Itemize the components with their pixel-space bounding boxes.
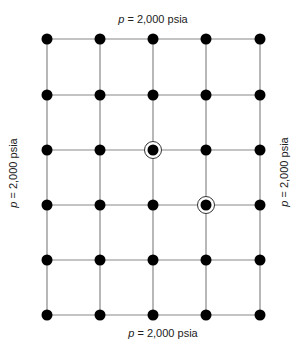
grid-node [42,200,53,211]
grid-node [95,255,106,266]
grid-lines [47,39,260,315]
grid-node [42,34,53,45]
grid-node [42,310,53,321]
pressure-value: = 2,000 psia [278,137,290,200]
grid-node [201,255,212,266]
grid-node [201,310,212,321]
pressure-value: = 2,000 psia [124,13,187,25]
grid-node [201,34,212,45]
pressure-variable: p [7,202,19,208]
grid-node [255,310,266,321]
grid-diagram [0,0,298,348]
grid-node [95,200,106,211]
grid-node [95,34,106,45]
grid-node [255,90,266,101]
grid-node [255,200,266,211]
grid-node [95,90,106,101]
grid-node [201,90,212,101]
grid-node [42,255,53,266]
grid-node [42,90,53,101]
grid-node [148,310,159,321]
grid-node [255,145,266,156]
right-boundary-label: p = 2,000 psia [278,137,290,206]
bottom-boundary-label: p = 2,000 psia [128,327,197,339]
pressure-value: = 2,000 psia [7,138,19,201]
grid-node [148,90,159,101]
grid-node [255,255,266,266]
grid-node [148,200,159,211]
grid-node [201,145,212,156]
grid-node [95,310,106,321]
pressure-variable: p [278,201,290,207]
grid-node [148,255,159,266]
grid-node [148,145,159,156]
grid-node [255,34,266,45]
grid-node [201,200,212,211]
top-boundary-label: p = 2,000 psia [118,13,187,25]
grid-node [148,34,159,45]
pressure-value: = 2,000 psia [134,327,197,339]
grid-node [42,145,53,156]
grid-node [95,145,106,156]
left-boundary-label: p = 2,000 psia [7,138,19,207]
